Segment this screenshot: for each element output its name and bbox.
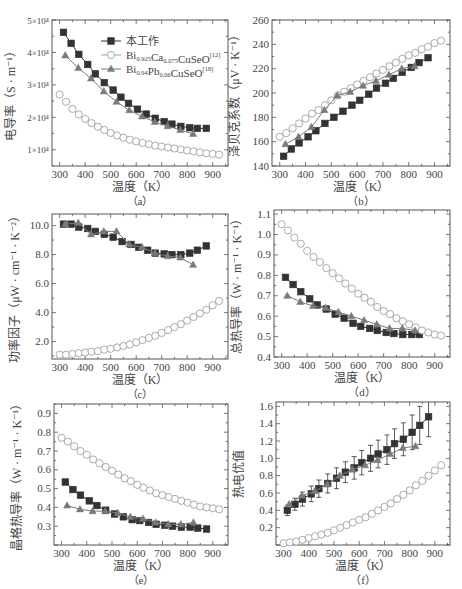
data-point [64, 502, 71, 508]
data-point [75, 111, 82, 118]
plot-frame [276, 402, 450, 545]
x-tick-label: 500 [324, 359, 341, 371]
y-tick-label: 220 [253, 62, 270, 74]
y-tick-label: 0.9 [37, 407, 51, 419]
y-axis-title: 泽贝克系数（μV · K⁻¹） [227, 29, 242, 156]
data-point [400, 331, 407, 338]
data-point [425, 413, 432, 420]
data-point [386, 63, 393, 70]
plot-frame [274, 210, 450, 357]
x-tick-label: 400 [77, 168, 94, 180]
x-tick-label: 500 [326, 547, 343, 559]
data-point [297, 288, 304, 295]
data-point [282, 140, 289, 146]
y-tick-label: 160 [253, 135, 270, 147]
x-tick-label: 700 [375, 359, 392, 371]
chart-panel-b: 3004005006007008009001401601802002202402… [227, 14, 450, 208]
data-point [400, 491, 407, 498]
legend-marker-icon [107, 51, 114, 58]
data-point [367, 455, 374, 462]
data-point [374, 303, 381, 310]
y-tick-label: 0.4 [259, 504, 273, 516]
y-tick-label: 0.8 [259, 469, 273, 481]
y-tick-label: 1.6 [259, 400, 273, 412]
data-point [56, 91, 63, 98]
x-tick-label: 700 [375, 168, 392, 180]
y-tick-label: 0.2 [259, 521, 273, 533]
data-point [412, 482, 419, 489]
data-point [291, 234, 298, 241]
legend-label: Bi0.94Pb0.06CuSeO[18] [126, 63, 213, 79]
data-point [194, 125, 201, 132]
data-point [306, 296, 313, 303]
x-tick-label: 600 [350, 359, 367, 371]
legend-marker-icon [108, 38, 115, 45]
y-tick-label: 3×10⁴ [27, 80, 49, 90]
legend: 本工作Bi0.925Ca0.075CuSeO[12]Bi0.94Pb0.06Cu… [101, 34, 221, 79]
y-tick-label: 180 [253, 111, 270, 123]
x-tick-label: 800 [401, 359, 418, 371]
data-point [424, 43, 431, 50]
data-point [349, 102, 356, 109]
data-point [113, 228, 120, 234]
data-point [203, 125, 210, 132]
data-point [186, 124, 193, 131]
chart-panel-f: 3004005006007008009000.20.40.60.81.01.21… [231, 400, 450, 586]
y-tick-label: 240 [253, 38, 270, 50]
y-tick-label: 0.4 [37, 501, 51, 513]
data-point [350, 320, 357, 327]
data-point [284, 227, 291, 234]
data-point [282, 274, 289, 281]
panel-label: （f） [350, 574, 376, 586]
x-tick-label: 400 [77, 361, 94, 373]
series-circle [56, 297, 223, 358]
data-point [416, 422, 423, 429]
data-point [209, 302, 216, 309]
y-tick-label: 0.8 [37, 426, 51, 438]
data-point [366, 325, 373, 332]
chart-panel-d: 3004005006007008009000.40.50.60.70.80.91… [229, 208, 450, 398]
data-point [373, 85, 380, 92]
x-tick-label: 500 [104, 547, 121, 559]
y-axis: 2.04.06.08.010.0 [30, 219, 228, 356]
y-tick-label: 8.0 [35, 248, 49, 260]
y-axis-title: 晶格热导率（W · m⁻¹ · K⁻¹） [9, 398, 24, 551]
x-tick-label: 600 [128, 361, 145, 373]
data-point [392, 59, 399, 66]
data-point [416, 59, 423, 66]
data-point [437, 37, 444, 44]
data-point [101, 79, 108, 86]
y-tick-label: 260 [253, 14, 270, 26]
x-tick-label: 800 [179, 547, 196, 559]
data-point [69, 105, 76, 112]
series-triangle [62, 219, 197, 267]
x-axis-title: 温度（K） [112, 372, 169, 387]
data-point [297, 298, 304, 304]
x-axis-title: 温度（K） [333, 179, 390, 194]
data-point [365, 91, 372, 98]
legend-marker-icon [107, 65, 114, 71]
x-tick-label: 700 [153, 361, 170, 373]
y-axis-title: 电导率（S · m⁻¹） [3, 45, 18, 141]
data-point [82, 115, 89, 122]
data-point [75, 219, 82, 225]
y-tick-label: 1.4 [259, 417, 273, 429]
data-point [409, 429, 416, 436]
x-tick-label: 300 [51, 361, 68, 373]
data-point [305, 134, 312, 141]
data-point [296, 140, 303, 147]
data-point [340, 108, 347, 115]
data-point [406, 487, 413, 494]
data-point [283, 130, 290, 137]
x-tick-label: 300 [273, 359, 290, 371]
data-point [190, 519, 197, 525]
data-point [297, 240, 304, 247]
data-point [302, 115, 309, 122]
y-tick-label: 0.6 [37, 463, 51, 475]
data-point [375, 451, 382, 458]
data-point [387, 500, 394, 507]
data-point [316, 258, 323, 265]
x-tick-label: 900 [204, 168, 221, 180]
data-point [284, 507, 291, 514]
data-point [356, 97, 363, 104]
